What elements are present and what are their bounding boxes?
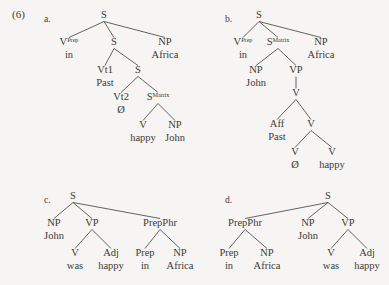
c-adj-happy: Adj (103, 247, 119, 258)
b-s-matrix-superscript: Matrix (273, 36, 291, 43)
d-vp: VP (341, 217, 355, 228)
tree-d-letter: d. (225, 195, 232, 205)
a-v-happy: V (139, 119, 147, 130)
a-v-happy-word: happy (130, 132, 156, 143)
branch-b-s-matrix-to-b-np-john (256, 49, 278, 66)
b-vp: VP (289, 64, 303, 75)
d-np-john: NP (301, 217, 315, 228)
tree-a-letter: a. (44, 14, 51, 24)
b-v-null-word: Ø (291, 159, 299, 170)
b-v-happy: V (328, 146, 336, 157)
d-np-africa-word: Africa (254, 260, 281, 271)
branch-c-prepphr-to-c-np-africa (160, 230, 180, 249)
d-root-s: S (325, 190, 331, 201)
a-vt1-word: Past (96, 77, 114, 88)
c-prepphr: PrepPhr (143, 217, 177, 228)
branch-c-prepphr-to-c-prep-in (145, 230, 160, 249)
a-np-john-word: John (165, 132, 186, 143)
branch-a-s-matrix-to-a-v-happy (143, 104, 158, 121)
tree-b: b.SVPrepinSMatrixNPAfricaNPJohnVPVAffPas… (225, 9, 346, 170)
b-v-prep-superscript: Prep (241, 36, 252, 43)
tree-c-letter: c. (44, 195, 51, 205)
a-s-matrix-superscript: Matrix (153, 91, 171, 98)
a-vt2-word: Ø (117, 104, 125, 115)
figure-page: (6) a.SVPrepinSNPAfricaVt1PastSVt2ØSMatr… (0, 0, 389, 285)
d-v-was-word: was (323, 260, 339, 271)
branch-b-v-mid-to-b-v-lower (296, 100, 311, 120)
b-v-prep: VPrep (234, 36, 253, 47)
b-v-happy-word: happy (319, 159, 345, 170)
a-v-prep: VPrep (60, 36, 79, 47)
branch-c-vp-to-c-v-was (75, 230, 92, 249)
c-v-was-word: was (67, 260, 83, 271)
b-v-lower: V (307, 118, 315, 129)
branch-b-v-lower-to-b-v-null (295, 131, 311, 148)
tree-d: d.SPrepPhrNPJohnVPPrepinNPAfricaVwasAdjh… (219, 190, 380, 271)
tree-a: a.SVPrepinSNPAfricaVt1PastSVt2ØSMatrixVh… (44, 9, 186, 143)
b-np-africa: NP (314, 36, 328, 47)
branch-b-s-matrix-to-b-vp (278, 49, 296, 66)
d-adj-happy-word: happy (354, 260, 380, 271)
b-root-s: S (256, 9, 262, 20)
branch-a-s-matrix-to-a-np-john (158, 104, 175, 121)
b-v-null: V (291, 146, 299, 157)
branch-d-vp-to-d-v-was (331, 230, 348, 249)
d-np-africa: NP (260, 247, 274, 258)
c-root-s: S (70, 190, 76, 201)
a-v-prep-superscript: Prep (67, 36, 78, 43)
c-np-john-word: John (44, 230, 65, 241)
branch-a-s-embedded-1-to-a-s-embedded-2 (114, 49, 138, 66)
b-np-john: NP (249, 64, 263, 75)
b-s-matrix: SMatrix (267, 36, 291, 47)
c-v-was: V (71, 247, 79, 258)
branch-b-v-mid-to-b-aff (277, 100, 296, 120)
a-vt2: Vt2 (113, 91, 129, 102)
a-root-s: S (101, 9, 107, 20)
a-s-embedded-2: S (135, 64, 141, 75)
branch-d-vp-to-d-adj-happy (348, 230, 367, 249)
branch-a-s-embedded-1-to-a-vt1 (105, 49, 114, 66)
b-np-africa-word: Africa (308, 49, 335, 60)
d-adj-happy: Adj (359, 247, 375, 258)
a-np-africa: NP (158, 36, 172, 47)
d-prep-in-word: in (225, 260, 234, 271)
c-np-africa-word: Africa (167, 260, 194, 271)
c-np-africa: NP (173, 247, 187, 258)
branch-c-vp-to-c-adj-happy (92, 230, 111, 249)
a-np-john: NP (168, 119, 182, 130)
branch-d-prepphr-to-d-prep-in (229, 230, 245, 249)
syntax-trees-canvas: a.SVPrepinSNPAfricaVt1PastSVt2ØSMatrixVh… (0, 0, 389, 285)
a-np-africa-word: Africa (152, 49, 179, 60)
c-adj-happy-word: happy (98, 260, 124, 271)
branch-d-prepphr-to-d-np-africa (245, 230, 267, 249)
a-v-prep-word: in (65, 49, 74, 60)
a-s-matrix: SMatrix (147, 91, 171, 102)
c-vp: VP (85, 217, 99, 228)
b-v-prep-word: in (239, 49, 248, 60)
a-s-embedded-1: S (111, 36, 117, 47)
d-np-john-word: John (298, 230, 319, 241)
b-v-mid: V (292, 87, 300, 98)
c-np-john: NP (47, 217, 61, 228)
b-aff: Aff (270, 118, 285, 129)
tree-b-letter: b. (225, 14, 232, 24)
d-prepphr: PrepPhr (228, 217, 262, 228)
tree-c: c.SNPJohnVPPrepPhrVwasAdjhappyPrepinNPAf… (44, 190, 194, 271)
branch-b-v-lower-to-b-v-happy (311, 131, 332, 148)
d-v-was: V (327, 247, 335, 258)
b-aff-word: Past (268, 131, 286, 142)
b-np-john-word: John (246, 77, 267, 88)
d-prep-in: Prep (219, 247, 238, 258)
c-prep-in: Prep (135, 247, 154, 258)
c-prep-in-word: in (141, 260, 150, 271)
a-vt1: Vt1 (97, 64, 113, 75)
